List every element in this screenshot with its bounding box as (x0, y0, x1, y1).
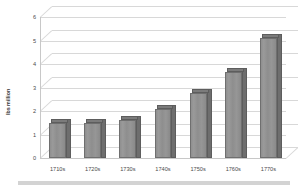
y-axis-tick-label: 2 (18, 108, 36, 114)
bar-front-face (119, 120, 136, 158)
y-axis-tick-label: 4 (18, 61, 36, 67)
y-axis-tick-label: 1 (18, 132, 36, 138)
y-axis-tick-label: 0 (18, 155, 36, 161)
x-axis-tick-label: 1750s (181, 166, 216, 172)
bar-side-face (171, 105, 176, 158)
bar-1750s (190, 93, 207, 158)
x-axis-tick-label: 1740s (145, 166, 180, 172)
bar-chart: lbs million 01234561710s1720s1730s1740s1… (0, 0, 303, 189)
bar-side-face (207, 89, 212, 158)
bar-side-face (136, 116, 141, 158)
footer-divider (18, 181, 290, 185)
y-axis-line (40, 17, 41, 159)
bar-side-face (101, 119, 106, 158)
bar-1740s (155, 109, 172, 158)
bar-1720s (84, 123, 101, 158)
gridline-back (52, 30, 298, 31)
x-axis-tick-label: 1730s (110, 166, 145, 172)
x-axis-tick-label: 1720s (75, 166, 110, 172)
bar-side-face (277, 34, 282, 158)
y-axis-tick-label: 6 (18, 14, 36, 20)
bar-1710s (49, 123, 66, 158)
gridline (40, 64, 286, 65)
x-axis-tick-label: 1710s (40, 166, 75, 172)
bar-side-face (242, 68, 247, 158)
gridline (40, 88, 286, 89)
bar-front-face (190, 93, 207, 158)
bar-side-face (66, 119, 71, 158)
bar-1760s (225, 72, 242, 158)
bar-1730s (119, 120, 136, 158)
y-axis-tick-label: 5 (18, 38, 36, 44)
gridline (40, 17, 286, 18)
bar-1770s (260, 38, 277, 158)
y-axis-tick-label: 3 (18, 85, 36, 91)
x-axis-tick-label: 1770s (251, 166, 286, 172)
bar-front-face (49, 123, 66, 158)
bar-front-face (260, 38, 277, 158)
x-axis-tick-label: 1760s (216, 166, 251, 172)
floor-depth-edge (286, 147, 299, 159)
bar-front-face (155, 109, 172, 158)
gridline (40, 41, 286, 42)
bar-front-face (84, 123, 101, 158)
x-axis-line (40, 158, 286, 159)
bar-front-face (225, 72, 242, 158)
gridline-back (52, 6, 298, 7)
plot-area: 01234561710s1720s1730s1740s1750s1760s177… (0, 0, 303, 189)
